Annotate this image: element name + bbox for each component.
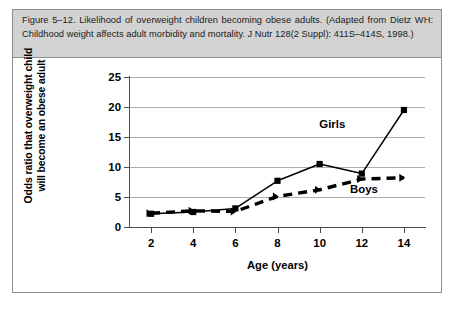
figure-caption-band: Figure 5–12. Likelihood of overweight ch… [13, 10, 441, 58]
y-tick-mark [124, 227, 130, 228]
y-tick-label: 15 [108, 131, 121, 143]
figure-caption: Figure 5–12. Likelihood of overweight ch… [22, 14, 433, 41]
series-label-girls: Girls [319, 118, 345, 130]
data-point-boys [399, 174, 405, 182]
y-tick-label: 20 [108, 101, 121, 113]
x-tick-mark [193, 227, 194, 233]
y-tick-label: 0 [115, 221, 121, 233]
x-tick-label: 6 [232, 237, 238, 249]
chart-plot-region: Odds ratio that overweight child will be… [13, 59, 441, 292]
x-tick-label: 14 [398, 237, 411, 249]
series-label-boys: Boys [350, 183, 378, 195]
data-point-girls [274, 178, 280, 184]
x-tick-label: 12 [355, 237, 368, 249]
x-tick-mark [404, 227, 405, 233]
x-tick-mark [235, 227, 236, 233]
x-tick-label: 4 [190, 237, 196, 249]
x-tick-label: 2 [148, 237, 154, 249]
plot-area: 0510152025 2468101214 GirlsBoys Age (yea… [130, 77, 425, 227]
data-point-girls [401, 107, 407, 113]
y-tick-label: 10 [108, 161, 121, 173]
data-point-boys [273, 192, 279, 200]
x-tick-mark [278, 227, 279, 233]
y-tick-label: 5 [115, 191, 121, 203]
x-tick-label: 8 [274, 237, 280, 249]
figure-container: Figure 5–12. Likelihood of overweight ch… [12, 9, 442, 293]
y-axis-title-line1: Odds ratio that overweight child [23, 41, 36, 211]
y-tick-label: 25 [108, 71, 121, 83]
x-tick-label: 10 [313, 237, 326, 249]
data-point-girls [317, 161, 323, 167]
series-lines [130, 77, 425, 227]
data-point-boys [315, 186, 321, 194]
x-tick-mark [362, 227, 363, 233]
x-axis-title: Age (years) [130, 259, 425, 271]
data-point-girls [359, 171, 365, 177]
series-line-girls [151, 110, 404, 214]
x-tick-mark [151, 227, 152, 233]
y-axis-title-line2: will become an obese adult [36, 41, 49, 211]
y-axis-title: Odds ratio that overweight child will be… [23, 41, 48, 211]
x-tick-mark [320, 227, 321, 233]
